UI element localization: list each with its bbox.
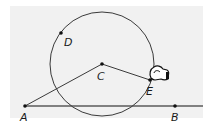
segment-ce bbox=[102, 64, 150, 80]
hand-cursor-icon bbox=[150, 66, 169, 80]
label-e: E bbox=[146, 85, 153, 98]
point-b[interactable] bbox=[173, 104, 177, 108]
geometry-diagram: A B C D E bbox=[0, 0, 212, 129]
label-d: D bbox=[64, 36, 72, 49]
label-a: A bbox=[19, 111, 28, 124]
label-b: B bbox=[171, 111, 179, 124]
segment-ac bbox=[25, 64, 102, 106]
point-d[interactable] bbox=[59, 31, 63, 35]
label-c: C bbox=[97, 70, 105, 83]
point-a[interactable] bbox=[23, 104, 27, 108]
point-c[interactable] bbox=[100, 62, 104, 66]
